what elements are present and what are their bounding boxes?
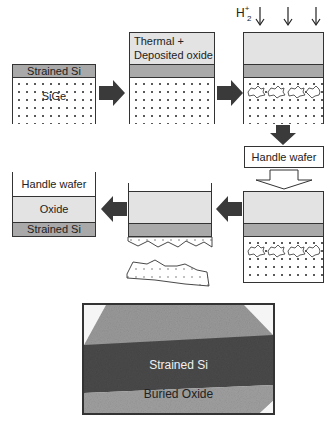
arrow-right-icon bbox=[217, 80, 245, 106]
strained-si-layer bbox=[129, 65, 215, 78]
tem-micrograph: Strained Si Buried Oxide bbox=[82, 303, 275, 415]
handle-wafer-label: Handle wafer bbox=[13, 178, 95, 190]
step3-wafer bbox=[243, 32, 324, 124]
oxide-layer bbox=[243, 32, 324, 65]
strained-si-layer: Strained Si bbox=[12, 223, 96, 237]
arrow-left-icon bbox=[214, 196, 242, 222]
oxide-label-line1: Thermal + bbox=[134, 35, 184, 47]
handle-wafer-box: Handle wafer bbox=[244, 146, 324, 168]
oxide-layer bbox=[243, 191, 324, 224]
strained-si-layer bbox=[128, 224, 212, 237]
tem-strained-si-label: Strained Si bbox=[84, 358, 273, 372]
step7-wafer: Handle wafer Oxide Strained Si bbox=[12, 172, 96, 238]
hydrogen-voids-icon bbox=[246, 244, 322, 258]
step5-wafer bbox=[243, 191, 324, 283]
implant-label: H + 2 bbox=[236, 6, 251, 20]
oxide-layer bbox=[128, 191, 212, 224]
oxide-label-line2: Deposited oxide bbox=[134, 49, 213, 61]
hydrogen-voids-icon bbox=[246, 85, 322, 99]
strained-si-layer bbox=[243, 224, 324, 237]
cleaved-sige-fragment bbox=[125, 258, 211, 290]
oxide-layer: Oxide bbox=[12, 196, 96, 223]
strained-si-layer: Strained Si bbox=[12, 64, 96, 78]
implant-sub: 2 bbox=[247, 14, 251, 23]
sige-label: SiGe bbox=[13, 90, 95, 102]
arrow-left-icon bbox=[99, 196, 127, 222]
sige-substrate bbox=[129, 78, 215, 124]
tem-buried-oxide-label: Buried Oxide bbox=[84, 387, 273, 401]
strained-si-label: Strained Si bbox=[13, 223, 95, 235]
sige-substrate: SiGe bbox=[12, 78, 96, 124]
implant-species: H bbox=[236, 6, 245, 20]
hollow-arrow-down-icon bbox=[255, 170, 313, 190]
strained-si-label: Strained Si bbox=[13, 65, 95, 77]
arrow-right-icon bbox=[99, 80, 127, 106]
handle-wafer-side bbox=[128, 183, 212, 191]
oxide-label: Oxide bbox=[13, 203, 95, 215]
implant-arrows-icon bbox=[256, 6, 326, 28]
residual-sige-layer bbox=[128, 237, 212, 249]
handle-wafer-label: Handle wafer bbox=[245, 151, 323, 163]
arrow-down-icon bbox=[270, 125, 296, 145]
implant-sup: + bbox=[245, 4, 250, 13]
strained-si-layer bbox=[243, 65, 324, 78]
deposited-oxide-layer: Thermal + Deposited oxide bbox=[129, 32, 215, 65]
step1-wafer: Strained Si SiGe bbox=[12, 64, 96, 124]
step2-wafer: Thermal + Deposited oxide bbox=[129, 32, 215, 124]
handle-wafer-layer: Handle wafer bbox=[12, 172, 96, 196]
